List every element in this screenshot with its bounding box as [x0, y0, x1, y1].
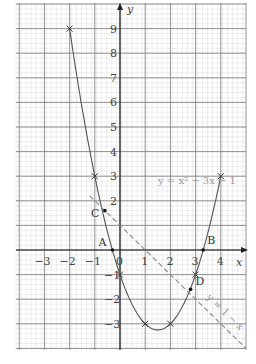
line-equation-label: y = 1 − x [204, 291, 247, 333]
y-tick-label: 6 [110, 96, 117, 109]
y-tick-label: 5 [110, 121, 117, 134]
point-label-a: A [97, 236, 107, 249]
y-tick-label: −3 [104, 318, 120, 331]
y-tick-label: 2 [110, 195, 117, 208]
y-tick-label: 7 [110, 72, 117, 85]
y-tick-label: 4 [110, 146, 117, 159]
point-label-b: B [207, 234, 215, 247]
point-label-c: C [91, 207, 99, 220]
y-tick-label: 3 [110, 170, 117, 183]
point-dot-icon [111, 248, 115, 252]
x-tick-label: −3 [34, 255, 50, 268]
y-tick-label: −2 [104, 293, 120, 306]
y-tick-label: 8 [110, 47, 117, 60]
x-arrow-icon [241, 247, 248, 253]
x-tick-label: 3 [192, 255, 199, 268]
tick-labels: xy−3−2−10123498765432−1−2−3 [34, 3, 243, 331]
y-tick-label: 9 [110, 23, 117, 36]
y-tick-label: −1 [104, 269, 120, 282]
point-dot-icon [103, 209, 107, 213]
y-axis-label: y [126, 3, 134, 16]
point-label-d: D [196, 275, 205, 288]
point-dot-icon [201, 248, 205, 252]
graph: xy−3−2−10123498765432−1−2−3 ABCDy = x² −… [0, 0, 256, 364]
x-tick-label: 2 [166, 255, 173, 268]
x-tick-label: 1 [141, 255, 148, 268]
x-tick-label: −1 [85, 255, 101, 268]
x-tick-label: −2 [60, 255, 76, 268]
point-dot-icon [189, 288, 193, 292]
parabola-equation-label: y = x² − 3x − 1 [157, 175, 236, 186]
x-tick-label: 4 [217, 255, 224, 268]
x-axis-label: x [236, 256, 243, 269]
